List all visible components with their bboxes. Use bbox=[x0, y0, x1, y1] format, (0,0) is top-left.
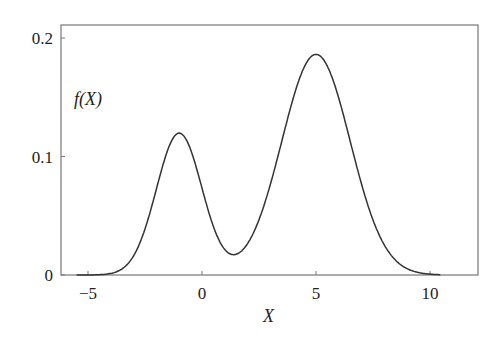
x-tick-label: 5 bbox=[312, 284, 321, 303]
x-axis-title: X bbox=[262, 306, 275, 326]
y-axis-ticks: 00.10.2 bbox=[32, 29, 65, 285]
x-axis-ticks: −50510 bbox=[79, 271, 439, 303]
x-tick-label: −5 bbox=[79, 284, 97, 303]
y-tick-label: 0 bbox=[45, 266, 54, 285]
x-tick-label: 10 bbox=[422, 284, 439, 303]
y-tick-label: 0.2 bbox=[32, 29, 53, 48]
chart-canvas: 00.10.2 −50510 f(X) X bbox=[0, 0, 502, 339]
y-tick-label: 0.1 bbox=[32, 148, 53, 167]
plot-frame bbox=[61, 25, 478, 275]
y-axis-title: f(X) bbox=[74, 89, 102, 110]
x-tick-label: 0 bbox=[198, 284, 207, 303]
density-curve bbox=[77, 54, 441, 275]
